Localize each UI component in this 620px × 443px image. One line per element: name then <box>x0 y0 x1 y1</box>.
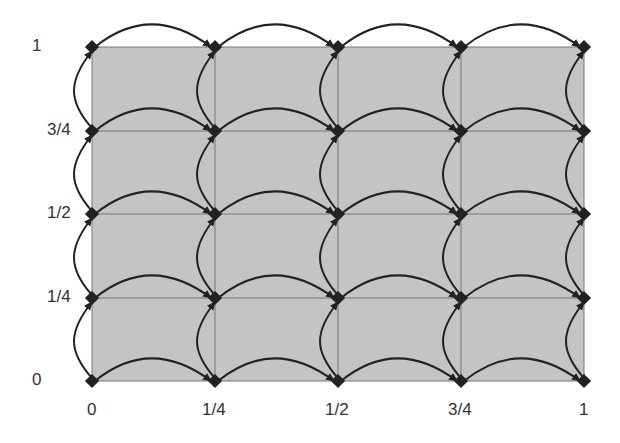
right-arc <box>464 25 580 48</box>
y-tick-label: 1 <box>32 36 41 56</box>
y-tick-label: 1/2 <box>47 203 71 223</box>
grid-diagram <box>0 0 620 443</box>
x-tick-label: 3/4 <box>448 400 472 420</box>
right-arc <box>95 25 211 48</box>
right-arc <box>218 25 334 48</box>
up-arc <box>74 51 92 128</box>
x-tick-label: 1/2 <box>325 400 349 420</box>
up-arc <box>74 302 92 378</box>
y-tick-label: 0 <box>32 370 41 390</box>
x-tick-label: 1 <box>579 400 588 420</box>
y-tick-label: 1/4 <box>47 287 71 307</box>
up-arc <box>74 135 92 211</box>
x-tick-label: 1/4 <box>202 400 226 420</box>
right-arc <box>341 25 457 48</box>
y-tick-label: 3/4 <box>47 120 71 140</box>
up-arc <box>74 218 92 295</box>
x-tick-label: 0 <box>87 400 96 420</box>
